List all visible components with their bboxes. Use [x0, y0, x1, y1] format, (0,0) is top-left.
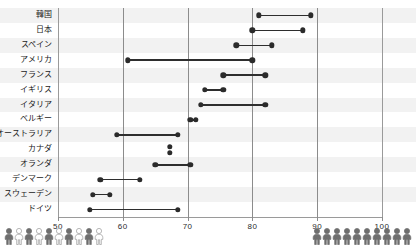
x-axis-tick-label: 70	[183, 222, 193, 231]
x-axis-line	[58, 217, 383, 218]
y-axis-label: ベルギー	[20, 115, 52, 123]
x-axis-tick-label: 80	[247, 222, 257, 231]
row-band	[0, 8, 416, 23]
y-axis-label-column: 韓国日本スペインアメリカフランスイギリスイタリアベルギーオーストラリアカナダオラ…	[0, 8, 56, 217]
y-axis-label: イタリア	[20, 101, 52, 109]
person-icon	[14, 228, 24, 245]
person-icon	[24, 228, 34, 245]
y-axis-label: オランダ	[20, 160, 52, 168]
range-connector-line	[201, 104, 266, 106]
dumbbell-chart: 韓国日本スペインアメリカフランスイギリスイタリアベルギーオーストラリアカナダオラ…	[0, 0, 416, 246]
y-axis-label: デンマーク	[12, 175, 52, 183]
y-axis-label: 韓国	[36, 11, 52, 19]
y-axis-label: スウェーデン	[4, 190, 52, 198]
person-icon	[94, 228, 104, 245]
pictogram-group-right	[312, 228, 412, 245]
y-axis-label: イギリス	[20, 86, 52, 94]
y-axis-line	[58, 8, 59, 218]
y-axis-label: フランス	[20, 71, 52, 79]
x-axis-tick	[123, 217, 124, 221]
person-icon	[402, 228, 412, 245]
y-axis-label: カナダ	[28, 145, 52, 153]
range-connector-line	[117, 134, 178, 136]
range-connector-line	[155, 164, 190, 166]
row-band	[0, 157, 416, 172]
x-axis-tick	[188, 217, 189, 221]
row-band	[0, 187, 416, 202]
row-band	[0, 113, 416, 128]
range-connector-line	[252, 30, 303, 32]
range-connector-line	[259, 15, 311, 17]
x-axis-tick	[382, 217, 383, 221]
person-icon	[352, 228, 362, 245]
gridline	[123, 8, 124, 217]
range-connector-line	[236, 45, 272, 47]
x-axis-tick	[252, 217, 253, 221]
row-band	[0, 202, 416, 217]
plot-right-border	[382, 8, 383, 218]
row-band	[0, 68, 416, 83]
person-icon	[372, 228, 382, 245]
y-axis-label: スペイン	[21, 41, 52, 49]
person-icon	[342, 228, 352, 245]
person-icon	[322, 228, 332, 245]
gridline	[188, 8, 189, 217]
y-axis-label: 日本	[36, 26, 52, 34]
person-icon	[312, 228, 322, 245]
x-axis-tick	[58, 217, 59, 221]
person-icon	[64, 228, 74, 245]
y-axis-label: ドイツ	[28, 205, 52, 213]
person-icon	[4, 228, 14, 245]
row-band	[0, 127, 416, 142]
row-band	[0, 38, 416, 53]
gridline	[317, 8, 318, 217]
y-axis-label: オーストラリア	[0, 130, 52, 138]
person-icon	[362, 228, 372, 245]
range-connector-line	[100, 179, 140, 181]
person-icon	[74, 228, 84, 245]
person-icon	[332, 228, 342, 245]
person-icon	[84, 228, 94, 245]
person-icon	[54, 228, 64, 245]
row-band	[0, 142, 416, 157]
person-icon	[34, 228, 44, 245]
gridline	[252, 8, 253, 217]
row-band	[0, 172, 416, 187]
x-axis-tick-label: 60	[118, 222, 128, 231]
row-band	[0, 23, 416, 38]
x-axis-tick	[317, 217, 318, 221]
person-icon	[392, 228, 402, 245]
person-icon	[44, 228, 54, 245]
range-connector-line	[90, 209, 178, 211]
range-connector-line	[128, 59, 252, 61]
person-icon	[382, 228, 392, 245]
range-connector-line	[223, 74, 265, 76]
pictogram-group-left	[4, 228, 104, 245]
y-axis-label: アメリカ	[20, 56, 52, 64]
